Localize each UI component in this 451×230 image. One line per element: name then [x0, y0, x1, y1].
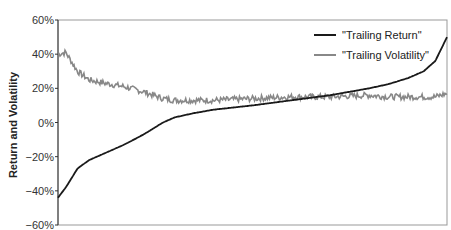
legend-item-volatility: "Trailing Volatility": [314, 45, 429, 65]
legend-swatch-volatility: [314, 54, 336, 56]
y-tick-label: 40%: [32, 48, 54, 60]
y-tick-label: 20%: [32, 82, 54, 94]
y-tick-label: 0%: [38, 117, 54, 129]
legend-label-return: "Trailing Return": [342, 29, 422, 41]
y-tick-label: −40%: [26, 185, 54, 197]
legend-swatch-return: [314, 34, 336, 36]
legend: "Trailing Return" "Trailing Volatility": [314, 25, 429, 65]
legend-item-return: "Trailing Return": [314, 25, 429, 45]
legend-label-volatility: "Trailing Volatility": [342, 49, 429, 61]
y-tick-label: −20%: [26, 151, 54, 163]
y-axis-label: Return and Volatility: [7, 72, 19, 178]
y-tick-label: −60%: [26, 219, 54, 230]
y-tick-label: 60%: [32, 14, 54, 26]
